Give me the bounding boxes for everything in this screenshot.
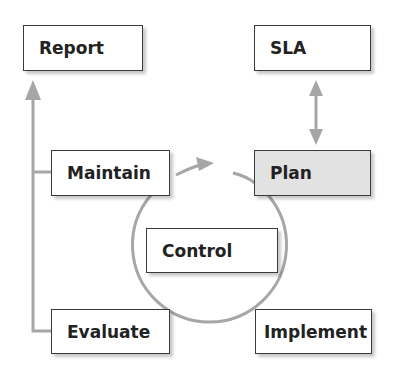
arrowhead-up-icon (25, 80, 41, 100)
node-label: Evaluate (67, 322, 150, 342)
arrowhead-up-icon (309, 80, 323, 96)
node-implement: Implement (255, 309, 372, 354)
node-report: Report (23, 25, 143, 71)
node-maintain: Maintain (51, 150, 170, 196)
arrowhead-down-icon (309, 129, 323, 145)
node-label: Report (39, 38, 104, 58)
node-evaluate: Evaluate (51, 309, 170, 354)
arrowhead-icon (196, 157, 214, 171)
maintain-to-plan-arrow (176, 157, 255, 183)
node-label: Plan (270, 163, 312, 183)
node-label: Implement (264, 322, 367, 342)
sla-plan-bidirectional-arrow (309, 80, 323, 145)
node-sla: SLA (254, 25, 371, 71)
node-label: SLA (270, 38, 306, 58)
node-label: Control (162, 241, 232, 261)
node-control: Control (146, 228, 278, 273)
node-label: Maintain (67, 163, 151, 183)
node-plan: Plan (254, 150, 371, 196)
feedback-line-to-report (25, 80, 51, 331)
